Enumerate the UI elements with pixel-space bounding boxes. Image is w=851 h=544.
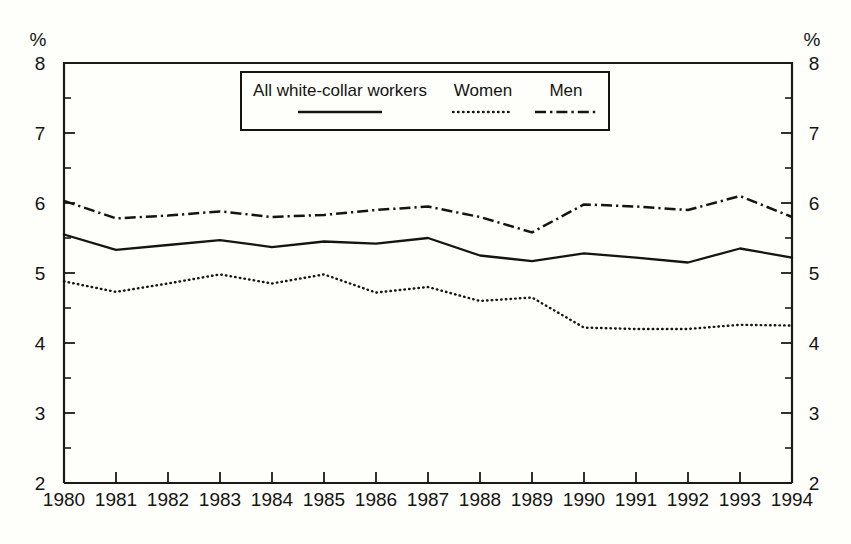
y-tick-label-left: 3 [35,403,46,424]
line-chart: 22334455667788 1980198119821983198419851… [0,0,851,544]
x-tick-label: 1980 [43,489,85,510]
x-tick-label: 1983 [199,489,241,510]
x-tick-label: 1987 [407,489,449,510]
legend-label: All white-collar workers [253,81,427,100]
x-tick-label: 1985 [303,489,345,510]
chart-container: 22334455667788 1980198119821983198419851… [0,0,851,544]
x-tick-label: 1990 [563,489,605,510]
y-tick-label-left: 7 [35,123,46,144]
y-tick-label-right: 8 [809,53,820,74]
y-tick-label-right: 3 [809,403,820,424]
y-axis-unit-left: % [30,29,47,50]
chart-legend: All white-collar workersWomenMen [241,72,609,130]
legend-label: Women [454,81,512,100]
x-tick-label: 1993 [719,489,761,510]
x-tick-label: 1981 [95,489,137,510]
y-tick-label-left: 8 [35,53,46,74]
y-tick-label-right: 6 [809,193,820,214]
x-tick-label: 1992 [667,489,709,510]
x-tick-label: 1982 [147,489,189,510]
x-tick-label: 1988 [459,489,501,510]
y-tick-label-left: 6 [35,193,46,214]
x-tick-label: 1984 [251,489,294,510]
x-tick-label: 1991 [615,489,657,510]
x-tick-label: 1994 [771,489,814,510]
y-tick-label-left: 4 [35,333,46,354]
x-tick-label: 1989 [511,489,553,510]
y-tick-label-left: 5 [35,263,46,284]
x-tick-label: 1986 [355,489,397,510]
x-axis-tick-labels: 1980198119821983198419851986198719881989… [43,489,814,510]
y-axis-unit-right: % [804,29,821,50]
legend-label: Men [549,81,582,100]
y-tick-label-right: 4 [809,333,820,354]
y-tick-label-right: 5 [809,263,820,284]
y-tick-label-right: 7 [809,123,820,144]
